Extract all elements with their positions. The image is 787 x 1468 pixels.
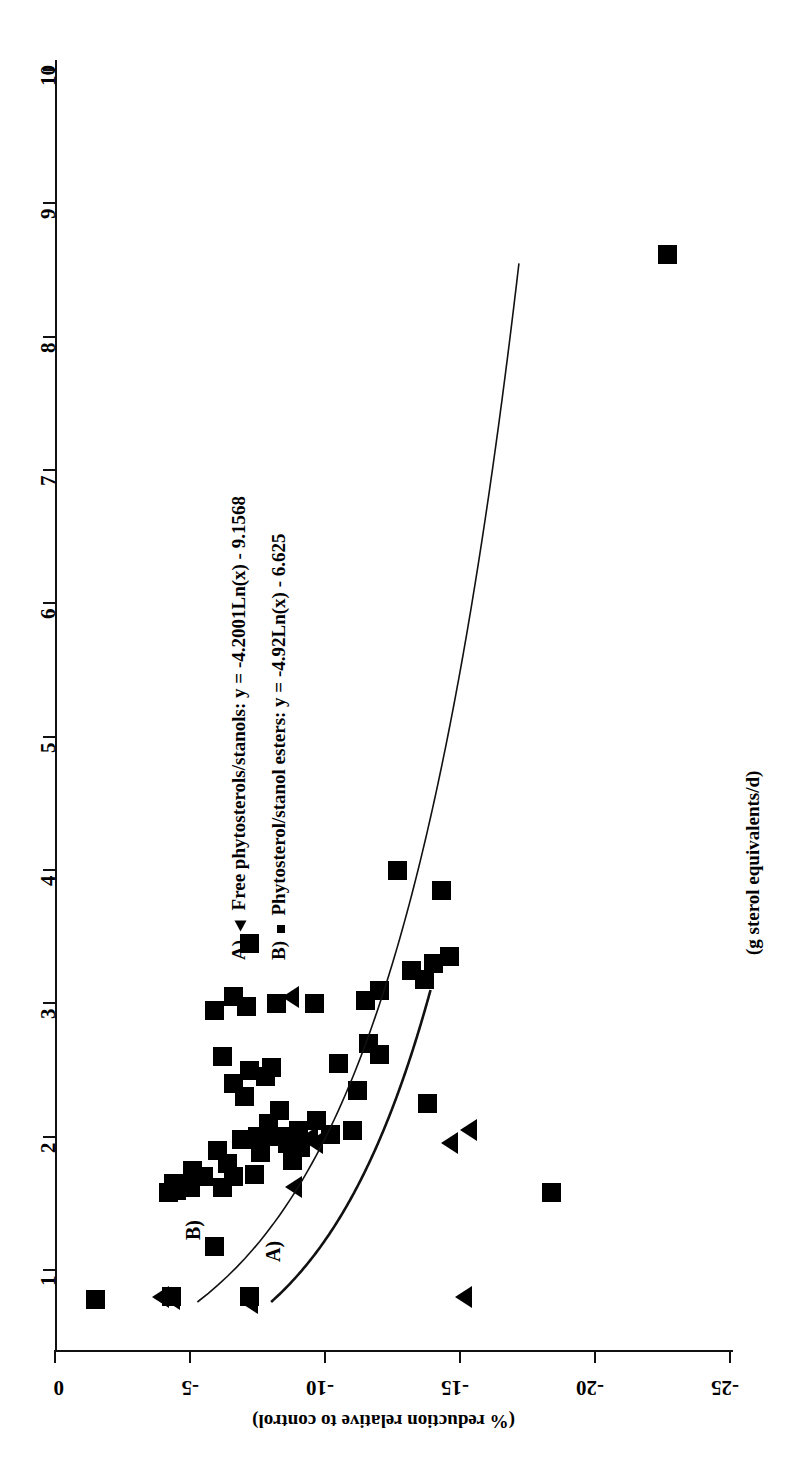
legend-entry-b: B) Phytosterol/stanol esters: y = -4.92L…: [268, 534, 290, 961]
legend-tag-a: A): [228, 940, 249, 960]
regression-curve-a-free: [271, 990, 430, 1302]
curve-label-b: B): [182, 1220, 205, 1240]
legend-text-b: Phytosterol/stanol esters: y = -4.92Ln(x…: [268, 534, 289, 916]
square-marker-icon: [277, 925, 285, 933]
regression-curves: [0, 0, 787, 1468]
triangle-marker-icon: [235, 921, 247, 932]
legend-tag-b: B): [268, 941, 289, 960]
curve-label-a: A): [262, 1241, 285, 1262]
scatter-chart-figure: 12345678910 0-5-10-15-20-25 (g sterol eq…: [0, 0, 787, 1468]
legend-text-a: Free phytosterols/stanols: y = -4.2001Ln…: [228, 496, 249, 910]
legend-entry-a: A) Free phytosterols/stanols: y = -4.200…: [228, 496, 250, 960]
